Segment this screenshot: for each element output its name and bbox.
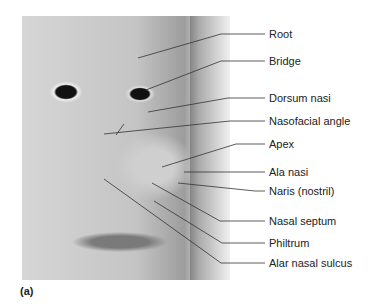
label-nasal-septum: Nasal septum [269,215,336,228]
leader-dorsum-nasi [148,98,265,112]
label-dorsum-nasi: Dorsum nasi [269,92,331,105]
leader-philtrum [154,201,265,243]
label-philtrum: Philtrum [269,237,309,250]
label-nasofacial-angle: Nasofacial angle [269,115,350,128]
leader-root [138,34,265,58]
leader-nasofacial-tick [116,124,124,135]
leader-apex [162,144,265,167]
leader-nasal-septum [152,183,265,221]
label-alar-nasal-sulcus: Alar nasal sulcus [269,257,352,270]
label-naris: Naris (nostril) [269,185,334,198]
label-apex: Apex [269,138,294,151]
label-ala-nasi: Ala nasi [269,166,308,179]
leader-bridge [146,61,265,90]
figure-caption: (a) [20,285,33,297]
leader-nasofacial-angle [104,121,265,134]
label-bridge: Bridge [269,55,301,68]
label-root: Root [269,28,292,41]
leader-naris [178,183,265,191]
